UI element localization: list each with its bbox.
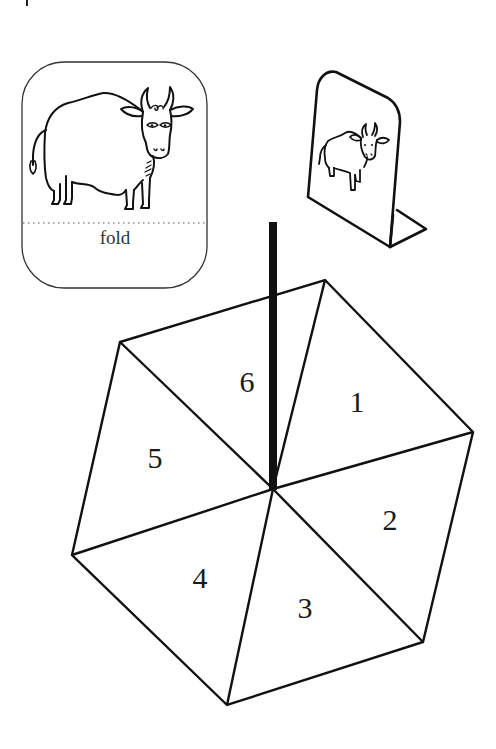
fold-card: fold xyxy=(22,62,207,288)
section-1-label: 1 xyxy=(350,387,365,417)
section-6-label: 6 xyxy=(240,367,255,397)
section-3-label: 3 xyxy=(298,593,313,623)
spinner-instructions-figure: fold xyxy=(0,0,496,749)
section-4-label: 4 xyxy=(193,563,208,593)
fold-label: fold xyxy=(100,227,131,248)
section-2-label: 2 xyxy=(383,505,398,535)
standing-card-base xyxy=(390,210,426,247)
spinner-stick xyxy=(269,222,277,490)
fold-card-outline xyxy=(22,62,207,288)
hexagon-spinner xyxy=(72,222,473,705)
standing-card xyxy=(308,72,426,247)
section-5-label: 5 xyxy=(148,443,163,473)
standing-card-face xyxy=(308,72,400,247)
